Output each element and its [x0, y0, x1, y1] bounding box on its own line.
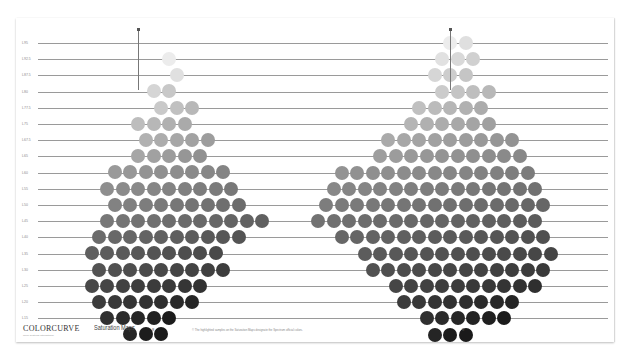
color-sample-dot: [451, 247, 465, 261]
color-sample-dot: [435, 247, 449, 261]
color-sample-dot: [404, 214, 418, 228]
color-sample-dot: [420, 279, 434, 293]
color-sample-dot: [490, 198, 504, 212]
axis-marker-icon: [449, 28, 452, 31]
color-sample-dot: [232, 198, 246, 212]
color-sample-dot: [482, 279, 496, 293]
row-label: L80: [22, 90, 28, 94]
color-sample-dot: [490, 295, 504, 309]
color-sample-dot: [185, 165, 199, 179]
color-sample-dot: [397, 166, 411, 180]
row-label: L75: [22, 122, 28, 126]
color-sample-dot: [185, 133, 199, 147]
color-sample-dot: [466, 52, 480, 66]
color-sample-dot: [100, 279, 114, 293]
color-sample-dot: [224, 214, 238, 228]
color-sample-dot: [185, 263, 199, 277]
guide-line: [38, 124, 608, 125]
color-sample-dot: [342, 214, 356, 228]
color-sample-dot: [216, 198, 230, 212]
color-sample-dot: [92, 263, 106, 277]
color-sample-dot: [513, 214, 527, 228]
row-label: L95: [22, 41, 28, 45]
color-sample-dot: [428, 263, 442, 277]
color-sample-dot: [428, 295, 442, 309]
color-sample-dot: [443, 263, 457, 277]
row-label: L65: [22, 154, 28, 158]
color-sample-dot: [528, 182, 542, 196]
color-sample-dot: [474, 166, 488, 180]
color-sample-dot: [358, 182, 372, 196]
color-sample-dot: [170, 133, 184, 147]
color-sample-dot: [513, 182, 527, 196]
color-sample-dot: [435, 85, 449, 99]
color-sample-dot: [100, 182, 114, 196]
row-label: L15: [22, 316, 28, 320]
color-sample-dot: [420, 247, 434, 261]
vertical-axis: [450, 30, 451, 90]
color-sample-dot: [482, 117, 496, 131]
color-sample-dot: [350, 166, 364, 180]
color-sample-dot: [420, 117, 434, 131]
color-sample-dot: [412, 166, 426, 180]
color-sample-dot: [209, 182, 223, 196]
row-label: L35: [22, 252, 28, 256]
color-sample-dot: [147, 149, 161, 163]
color-sample-dot: [397, 230, 411, 244]
color-sample-dot: [497, 149, 511, 163]
color-sample-dot: [443, 230, 457, 244]
color-sample-dot: [466, 279, 480, 293]
color-sample-dot: [373, 247, 387, 261]
color-sample-dot: [482, 85, 496, 99]
color-sample-dot: [342, 182, 356, 196]
color-sample-dot: [147, 214, 161, 228]
color-sample-dot: [209, 214, 223, 228]
color-sample-dot: [178, 214, 192, 228]
color-sample-dot: [185, 295, 199, 309]
color-sample-dot: [466, 311, 480, 325]
color-sample-dot: [201, 198, 215, 212]
color-sample-dot: [397, 295, 411, 309]
vertical-axis: [138, 30, 139, 90]
color-sample-dot: [335, 166, 349, 180]
color-sample-dot: [451, 149, 465, 163]
color-sample-dot: [185, 101, 199, 115]
color-sample-dot: [170, 68, 184, 82]
color-sample-dot: [404, 182, 418, 196]
color-sample-dot: [482, 182, 496, 196]
color-sample-dot: [350, 198, 364, 212]
color-sample-dot: [412, 198, 426, 212]
color-sample-dot: [319, 198, 333, 212]
color-sample-dot: [420, 214, 434, 228]
color-sample-dot: [451, 85, 465, 99]
color-sample-dot: [428, 328, 442, 342]
color-sample-dot: [466, 214, 480, 228]
color-sample-dot: [170, 263, 184, 277]
color-sample-dot: [162, 214, 176, 228]
color-sample-dot: [474, 133, 488, 147]
color-sample-dot: [139, 263, 153, 277]
guide-line: [38, 43, 608, 44]
color-sample-dot: [459, 101, 473, 115]
color-sample-dot: [131, 117, 145, 131]
color-sample-dot: [327, 182, 341, 196]
color-sample-dot: [490, 263, 504, 277]
color-sample-dot: [216, 230, 230, 244]
color-sample-dot: [435, 311, 449, 325]
color-sample-dot: [428, 68, 442, 82]
row-label: L25: [22, 284, 28, 288]
color-sample-dot: [85, 279, 99, 293]
color-sample-dot: [209, 246, 223, 260]
color-sample-dot: [154, 327, 168, 341]
color-sample-dot: [528, 247, 542, 261]
color-sample-dot: [536, 263, 550, 277]
color-sample-dot: [428, 198, 442, 212]
color-sample-dot: [497, 247, 511, 261]
color-sample-dot: [162, 149, 176, 163]
color-sample-dot: [131, 182, 145, 196]
color-sample-dot: [147, 279, 161, 293]
color-sample-dot: [490, 166, 504, 180]
color-sample-dot: [108, 263, 122, 277]
color-sample-dot: [131, 149, 145, 163]
axis-marker-icon: [137, 28, 140, 31]
